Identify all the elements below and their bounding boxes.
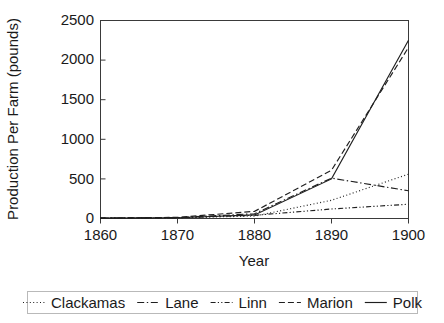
legend-label: Linn [239, 294, 267, 311]
x-tick-label: 1890 [315, 226, 348, 243]
legend-label: Marion [307, 294, 353, 311]
x-axis-title: Year [239, 252, 269, 269]
legend-label: Lane [165, 294, 198, 311]
y-tick-label: 500 [69, 170, 94, 187]
legend-label: Polk [393, 294, 423, 311]
series-layer [101, 40, 409, 218]
y-axis-tick-labels: 2500 2000 1500 1000 500 0 [61, 11, 94, 226]
y-tick-label: 2500 [61, 11, 94, 28]
legend-label: Clackamas [51, 294, 125, 311]
line-chart: 2500 2000 1500 1000 500 0 Production Per… [0, 0, 444, 323]
series-line-marion [101, 47, 409, 218]
x-axis-tick-labels: 1860 1870 1880 1890 1900 [84, 226, 425, 243]
x-axis-ticks [101, 219, 409, 224]
y-tick-label: 1500 [61, 90, 94, 107]
chart-figure: 2500 2000 1500 1000 500 0 Production Per… [0, 0, 444, 323]
series-line-lane [101, 178, 409, 218]
y-axis-ticks [101, 21, 106, 219]
x-tick-label: 1900 [392, 226, 425, 243]
series-line-polk [101, 40, 409, 218]
x-tick-label: 1860 [84, 226, 117, 243]
x-tick-label: 1870 [161, 226, 194, 243]
y-axis-title: Production Per Farm (pounds) [4, 18, 21, 220]
y-tick-label: 0 [86, 209, 94, 226]
y-tick-label: 2000 [61, 50, 94, 67]
plot-frame [101, 21, 409, 219]
x-tick-label: 1880 [238, 226, 271, 243]
y-tick-label: 1000 [61, 130, 94, 147]
